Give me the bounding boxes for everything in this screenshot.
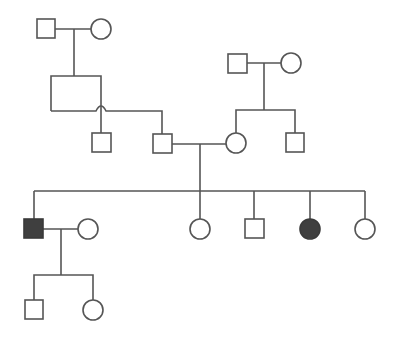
square-icon [92, 133, 111, 152]
couple-line-gen2 [34, 144, 365, 219]
square-icon [286, 133, 304, 152]
square-icon [153, 134, 172, 153]
circle-icon [355, 219, 375, 239]
square-icon [37, 19, 55, 38]
square-icon [245, 219, 264, 238]
circle-icon [78, 219, 98, 239]
sibship-line-gen1-left [51, 76, 162, 134]
circle-icon [91, 19, 111, 39]
pedigree-diagram [0, 0, 395, 338]
circle-icon [190, 219, 210, 239]
circle-icon [83, 300, 103, 320]
filled-circle-icon [300, 219, 320, 239]
square-icon [228, 54, 247, 73]
square-icon [25, 300, 43, 319]
pedigree-canvas [0, 0, 395, 338]
couple-line-gen1-left [55, 29, 91, 76]
circle-icon [281, 53, 301, 73]
couple-line-gen3 [34, 229, 93, 300]
circle-icon [226, 133, 246, 153]
filled-square-icon [24, 219, 43, 238]
